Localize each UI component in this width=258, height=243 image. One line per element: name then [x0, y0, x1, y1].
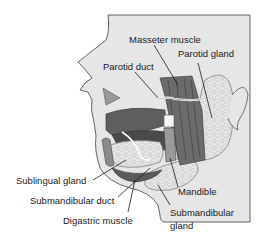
- label-mandible: Mandible: [178, 186, 217, 197]
- label-digastric-muscle: Digastric muscle: [63, 215, 133, 226]
- label-parotid-duct: Parotid duct: [103, 61, 154, 72]
- molar-tooth: [164, 115, 174, 127]
- label-sublingual-gland: Sublingual gland: [16, 175, 86, 186]
- label-parotid-gland: Parotid gland: [178, 48, 234, 59]
- sublingual-gland: [109, 141, 163, 168]
- label-submandibular-duct: Submandibular duct: [30, 195, 115, 206]
- label-submandibular-gland-2: gland: [170, 220, 193, 231]
- label-submandibular-gland-1: Submandibular: [170, 207, 234, 218]
- mandible: [164, 128, 176, 162]
- label-masseter-muscle: Masseter muscle: [129, 34, 201, 45]
- salivary-gland-diagram: Masseter muscle Parotid gland Parotid du…: [0, 0, 258, 243]
